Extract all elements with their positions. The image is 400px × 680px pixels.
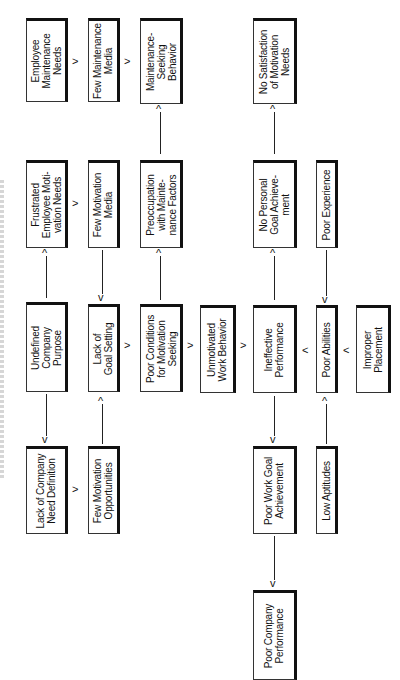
arrow-down-icon: v bbox=[270, 578, 276, 589]
connector-line bbox=[102, 250, 103, 294]
arrow-up-icon: ^ bbox=[156, 248, 161, 259]
arrow-up-icon: ^ bbox=[270, 104, 275, 115]
box-label: Poor Abilities bbox=[321, 322, 332, 377]
box-label: Few Maintenance Media bbox=[92, 23, 114, 99]
box-lack-company-need-definition: Lack of Company Need Definition bbox=[26, 446, 68, 534]
connector-line bbox=[160, 256, 161, 300]
box-no-satisfaction-motivation-needs: No Satisfaction of Motivation Needs bbox=[253, 18, 297, 104]
arrow-icon: > bbox=[124, 340, 130, 351]
box-label: Employee Maintenance Needs bbox=[30, 33, 63, 88]
box-improper-placement: Improper Placement bbox=[356, 305, 391, 393]
arrow-icon: > bbox=[72, 484, 78, 495]
box-preoccupation-maintenance-factors: Preoccupation with Mainte- nance Factors bbox=[140, 160, 183, 248]
box-label: Lack of Goal Setting bbox=[92, 323, 114, 376]
connector-line bbox=[46, 256, 47, 298]
box-label: Few Motivation Media bbox=[92, 173, 114, 237]
arrow-up-icon: ^ bbox=[98, 396, 103, 407]
box-label: Preoccupation with Mainte- nance Factors bbox=[144, 174, 177, 235]
connector-line bbox=[274, 112, 275, 154]
arrow-down-icon: v bbox=[98, 292, 104, 303]
arrow-up-icon: ^ bbox=[42, 248, 47, 259]
box-label: Undefined Company Purpose bbox=[30, 326, 63, 370]
arrow-icon: > bbox=[72, 198, 78, 209]
connector-line bbox=[46, 394, 47, 436]
arrow-icon: > bbox=[124, 56, 130, 67]
box-label: Poor Conditions for Motivation Seeking bbox=[144, 315, 177, 383]
arrow-up-icon: ^ bbox=[270, 248, 275, 259]
box-label: Low Aptitudes bbox=[321, 461, 332, 521]
connector-line bbox=[274, 396, 275, 436]
box-label: Improper Placement bbox=[362, 327, 384, 372]
box-poor-company-performance: Poor Company Performance bbox=[253, 590, 297, 680]
box-poor-experience: Poor Experience bbox=[316, 160, 338, 248]
box-poor-work-goal-achievement: Poor Work Goal Achievement bbox=[253, 446, 297, 534]
box-poor-conditions-motivation-seeking: Poor Conditions for Motivation Seeking bbox=[140, 304, 183, 392]
box-label: Unmotivated Work Behavior bbox=[206, 319, 228, 382]
arrow-down-icon: v bbox=[322, 294, 328, 305]
box-unmotivated-work-behavior: Unmotivated Work Behavior bbox=[200, 305, 236, 393]
box-label: Poor Work Goal Achievement bbox=[263, 457, 285, 525]
box-few-motivation-opportunities: Few Motivation Opportunities bbox=[88, 446, 120, 534]
connector-line bbox=[274, 256, 275, 300]
arrow-icon: > bbox=[72, 56, 78, 67]
box-frustrated-employee-motivation-needs: Frustrated Employee Moti- vation Needs bbox=[26, 160, 68, 248]
box-label: Maintenance- Seeking Behavior bbox=[144, 33, 177, 91]
box-label: No Satisfaction of Motivation Needs bbox=[258, 30, 291, 94]
box-label: Ineffective Performance bbox=[263, 322, 285, 377]
arrow-icon: < bbox=[302, 345, 308, 356]
box-poor-abilities: Poor Abilities bbox=[316, 305, 338, 393]
page-header-cropped bbox=[0, 180, 4, 480]
arrow-icon: > bbox=[187, 340, 193, 351]
connector-line bbox=[102, 404, 103, 444]
box-few-maintenance-media: Few Maintenance Media bbox=[88, 18, 120, 102]
arrow-up-icon: ^ bbox=[156, 104, 161, 115]
box-label: No Personal Goal Achieve- ment bbox=[258, 175, 291, 235]
box-low-aptitudes: Low Aptitudes bbox=[316, 446, 338, 534]
box-maintenance-seeking-behavior: Maintenance- Seeking Behavior bbox=[140, 18, 183, 104]
box-label: Few Motivation Opportunities bbox=[92, 459, 114, 523]
connector-line bbox=[274, 536, 275, 580]
box-lack-of-goal-setting: Lack of Goal Setting bbox=[88, 304, 120, 392]
arrow-down-icon: v bbox=[270, 434, 276, 445]
box-ineffective-performance: Ineffective Performance bbox=[253, 305, 297, 393]
box-no-personal-goal-achievement: No Personal Goal Achieve- ment bbox=[253, 160, 297, 248]
arrow-icon: < bbox=[343, 345, 349, 356]
connector-line bbox=[160, 112, 161, 154]
arrow-down-icon: v bbox=[42, 434, 48, 445]
box-label: Frustrated Employee Moti- vation Needs bbox=[30, 172, 63, 239]
box-undefined-company-purpose: Undefined Company Purpose bbox=[26, 302, 68, 392]
box-label: Poor Company Performance bbox=[263, 604, 285, 668]
arrow-up-icon: ^ bbox=[322, 396, 327, 407]
arrow-icon: > bbox=[240, 340, 246, 351]
box-label: Poor Experience bbox=[321, 170, 332, 241]
connector-line bbox=[326, 404, 327, 444]
box-few-motivation-media: Few Motivation Media bbox=[88, 160, 120, 248]
connector-line bbox=[326, 250, 327, 296]
box-label: Lack of Company Need Definition bbox=[35, 454, 57, 529]
box-employee-maintenance-needs: Employee Maintenance Needs bbox=[26, 18, 68, 102]
